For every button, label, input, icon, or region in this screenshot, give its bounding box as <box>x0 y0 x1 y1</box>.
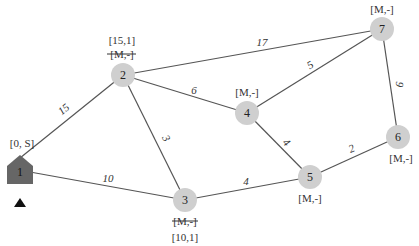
edge-4-5 <box>247 113 310 177</box>
node-1-number: 1 <box>17 165 23 179</box>
node-7-label: [M,-] <box>370 3 394 15</box>
weight-6-7: 9 <box>394 81 407 88</box>
node-4-label: [M,-] <box>235 86 259 98</box>
node-7-number: 7 <box>379 22 385 36</box>
weight-4-7: 5 <box>304 58 315 71</box>
node-3-label: [10,1] <box>172 231 199 243</box>
node-6: 6 [M,-] <box>386 125 413 164</box>
weight-5-6: 2 <box>346 142 356 155</box>
edges <box>20 29 398 200</box>
edge-1-2 <box>20 75 123 158</box>
edge-2-7 <box>123 29 382 75</box>
node-5-label: [M,-] <box>298 192 322 204</box>
node-5-number: 5 <box>307 170 313 184</box>
node-1-label: [0, S] <box>10 137 34 149</box>
node-3-number: 3 <box>182 193 188 207</box>
edge-5-6 <box>310 137 398 177</box>
node-2-number: 2 <box>120 68 126 82</box>
weight-3-5: 4 <box>243 175 249 187</box>
node-5: 5 [M,-] <box>298 165 322 204</box>
node-4-number: 4 <box>244 106 250 120</box>
node-6-label: [M,-] <box>389 152 413 164</box>
graph-diagram: 15 10 3 6 17 5 4 4 2 9 1 [0, S] 2 [15,1]… <box>0 0 419 246</box>
weight-2-3: 3 <box>159 132 173 144</box>
node-1: 1 [0, S] <box>7 137 34 207</box>
node-6-number: 6 <box>395 130 401 144</box>
node-3: 3 [M,-] [10,1] <box>172 188 199 243</box>
edge-weights: 15 10 3 6 17 5 4 4 2 9 <box>55 36 406 187</box>
node-2: 2 [15,1] [M,-] <box>107 34 136 87</box>
node-4: 4 [M,-] <box>235 86 259 125</box>
edge-2-3 <box>123 75 185 200</box>
node-2-label: [15,1] <box>109 34 136 46</box>
node-7: 7 [M,-] <box>370 3 394 41</box>
weight-1-3: 10 <box>103 172 115 184</box>
edge-2-4 <box>123 75 247 113</box>
source-triangle-icon <box>14 198 26 207</box>
weight-2-4: 6 <box>191 84 197 96</box>
weight-2-7: 17 <box>257 36 269 48</box>
weight-4-5: 4 <box>281 136 294 149</box>
weight-1-2: 15 <box>55 100 72 117</box>
